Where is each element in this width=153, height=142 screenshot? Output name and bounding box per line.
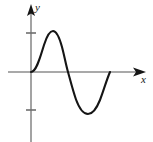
coordinate-plot	[0, 0, 153, 142]
y-axis-label: y	[35, 2, 40, 13]
sine-curve-figure: y x	[0, 0, 153, 142]
x-axis-label: x	[141, 74, 146, 85]
